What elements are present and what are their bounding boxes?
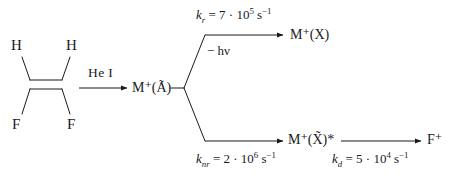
rate-exponent-nonradiative: 6 — [254, 150, 258, 160]
species-fragment-ion: F⁺ — [427, 133, 442, 147]
rate-base-dissociation: 10 — [373, 151, 386, 166]
rate-label-radiative: kr = 7 · 105 s−1 — [196, 8, 272, 21]
rate-base-radiative: 10 — [236, 7, 249, 22]
species-ground-ion-text: M⁺(X) — [290, 27, 329, 42]
branch-fork — [171, 35, 205, 141]
rate-units-exponent-radiative: −1 — [262, 6, 271, 16]
rate-coefficient-dissociation: 5 — [356, 151, 363, 166]
species-vib-excited-ion-text: M⁺(X̃)* — [288, 132, 334, 147]
rate-label-dissociation: kd = 5 · 104 s−1 — [332, 152, 409, 165]
rate-coefficient-nonradiative: 2 — [223, 151, 230, 166]
difluoroethylene-skeleton — [22, 57, 70, 114]
rate-dot-radiative: · — [229, 7, 233, 22]
species-excited-ion: M⁺(Ã) — [132, 81, 171, 95]
rate-equals-nonradiative: = — [213, 151, 220, 166]
atom-label-h-right: H — [66, 38, 77, 53]
ionization-reagent-label: He I — [88, 66, 113, 80]
rate-label-nonradiative: knr = 2 · 106 s−1 — [196, 152, 276, 165]
rate-dot-dissociation: · — [366, 151, 370, 166]
rate-equals-radiative: = — [208, 7, 215, 22]
atom-label-f-right: F — [67, 117, 75, 132]
rate-exponent-dissociation: 4 — [386, 150, 390, 160]
species-ground-ion: M⁺(X) — [290, 28, 329, 42]
bond-f-right — [62, 89, 70, 114]
rate-exponent-radiative: 5 — [249, 6, 253, 16]
species-fragment-ion-text: F⁺ — [427, 132, 442, 147]
photon-emission-label: − hν — [207, 44, 230, 57]
rate-subscript-nonradiative: nr — [202, 159, 210, 169]
bond-h-left — [22, 57, 30, 80]
fork-lower-diagonal — [184, 88, 205, 141]
rate-subscript-dissociation: d — [338, 159, 342, 169]
bond-f-left — [22, 89, 30, 114]
rate-equals-dissociation: = — [345, 151, 352, 166]
reaction-scheme-diagram: H H F F He I M⁺(Ã) kr = 7 · 105 s−1 − hν… — [0, 0, 454, 175]
rate-units-exponent-dissociation: −1 — [399, 150, 408, 160]
photon-emission-text: − hν — [207, 43, 230, 58]
rate-coefficient-radiative: 7 — [219, 7, 226, 22]
atom-label-h-left: H — [11, 38, 22, 53]
bond-h-right — [62, 57, 70, 80]
species-excited-ion-text: M⁺(Ã) — [132, 80, 171, 95]
atom-label-f-left: F — [12, 117, 20, 132]
rate-subscript-radiative: r — [202, 15, 205, 25]
species-vib-excited-ion: M⁺(X̃)* — [288, 133, 334, 147]
fork-upper-diagonal — [184, 35, 205, 88]
rate-base-nonradiative: 10 — [241, 151, 254, 166]
rate-units-exponent-nonradiative: −1 — [267, 150, 276, 160]
rate-dot-nonradiative: · — [233, 151, 237, 166]
